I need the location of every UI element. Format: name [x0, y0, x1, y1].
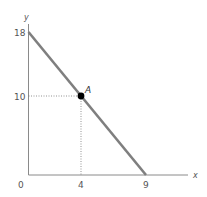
point-a-label: A	[84, 85, 91, 95]
y-tick-10: 10	[14, 92, 26, 102]
x-tick-4: 4	[78, 180, 84, 190]
chart: A y x 18 10 0 4 9	[0, 0, 207, 197]
point-a-marker	[78, 93, 85, 100]
x-axis-label: x	[192, 171, 198, 180]
y-axis-label: y	[23, 13, 29, 22]
demand-line	[29, 32, 147, 175]
origin-label: 0	[18, 180, 24, 190]
y-tick-18: 18	[14, 28, 26, 38]
x-tick-9: 9	[143, 180, 149, 190]
